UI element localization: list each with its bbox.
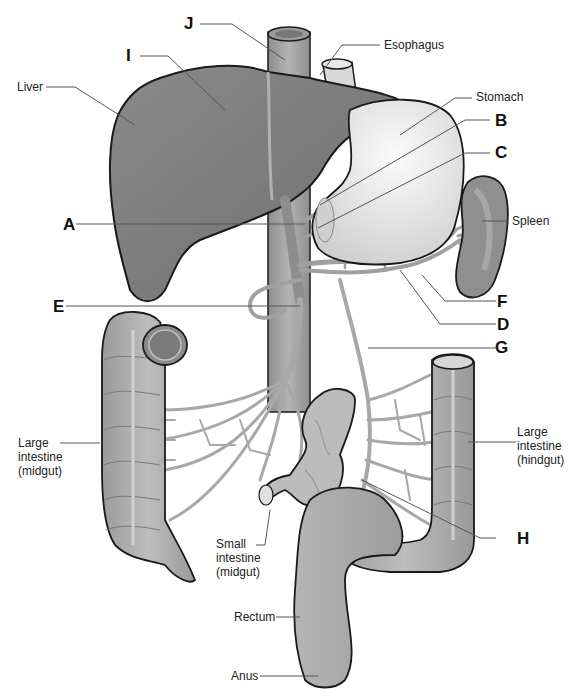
label-E: E	[53, 298, 64, 316]
label-anus: Anus	[231, 669, 258, 683]
label-stomach: Stomach	[476, 90, 523, 104]
label-rectum: Rectum	[234, 610, 275, 624]
label-C: C	[495, 144, 507, 162]
label-large-intestine-midgut: Large intestine (midgut)	[18, 436, 63, 478]
label-B: B	[495, 112, 507, 130]
label-D: D	[497, 316, 509, 334]
label-F: F	[497, 293, 507, 311]
label-liver: Liver	[17, 80, 43, 94]
label-I: I	[126, 47, 131, 65]
label-small-intestine-midgut: Small intestine (midgut)	[216, 537, 261, 579]
label-J: J	[184, 15, 193, 33]
label-spleen: Spleen	[512, 214, 549, 228]
rectum	[294, 488, 402, 688]
label-esophagus: Esophagus	[384, 38, 444, 52]
label-H: H	[517, 530, 529, 548]
pylorus	[316, 198, 334, 242]
large-intestine-midgut	[102, 312, 195, 582]
label-A: A	[63, 216, 75, 234]
label-large-intestine-hindgut: Large intestine (hindgut)	[517, 425, 564, 467]
label-G: G	[495, 339, 508, 357]
